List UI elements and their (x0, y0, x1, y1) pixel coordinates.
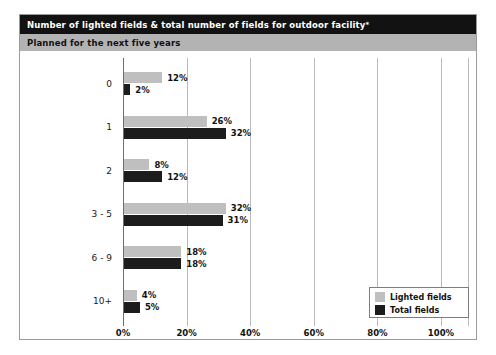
bar-value-label: 32% (231, 128, 251, 138)
gridline-0pct (123, 58, 124, 326)
bar-value-label: 26% (212, 116, 232, 126)
chart-screenshot: Number of lighted fields & total number … (0, 0, 496, 355)
bar-value-label: 32% (231, 203, 251, 213)
x-tick-label: 40% (240, 328, 260, 338)
chart-title-bar: Number of lighted fields & total number … (20, 15, 476, 34)
bar-value-label: 4% (142, 290, 156, 300)
plot-area: 12%2%26%32%8%12%32%31%18%18%4%5% 0%20%40… (20, 51, 476, 339)
bar-lighted-fields (124, 203, 226, 214)
bar-value-label: 31% (228, 215, 248, 225)
bar-value-label: 12% (167, 172, 187, 182)
title-footnote-marker: * (365, 21, 369, 29)
legend-swatch-total-fields (375, 305, 385, 315)
y-tick-label: 10+ (50, 296, 112, 306)
bar-total-fields (124, 258, 181, 269)
legend-label-lighted-fields: Lighted fields (390, 293, 452, 302)
chart-subtitle-bar: Planned for the next five years (20, 34, 476, 51)
y-tick-label: 6 - 9 (50, 253, 112, 263)
gridline-40pct (250, 58, 251, 326)
bar-lighted-fields (124, 116, 207, 127)
chart-frame: Number of lighted fields & total number … (19, 14, 477, 340)
x-tick-label: 0% (116, 328, 130, 338)
bar-total-fields (124, 215, 223, 226)
bar-lighted-fields (124, 159, 149, 170)
chart-subtitle: Planned for the next five years (27, 38, 180, 48)
bar-total-fields (124, 128, 226, 139)
legend-label-total-fields: Total fields (390, 306, 439, 315)
gridline-60pct (314, 58, 315, 326)
bar-lighted-fields (124, 290, 137, 301)
x-tick-label: 100% (428, 328, 454, 338)
bar-value-label: 18% (186, 247, 206, 257)
x-tick-label: 80% (367, 328, 387, 338)
gridline-100pct (441, 58, 442, 326)
legend-item: Total fields (375, 304, 468, 316)
bar-total-fields (124, 171, 162, 182)
legend-item: Lighted fields (375, 291, 468, 303)
bar-lighted-fields (124, 72, 162, 83)
page-title: Number of lighted fields & total number … (27, 20, 365, 30)
legend-swatch-lighted-fields (375, 292, 385, 302)
bar-lighted-fields (124, 246, 181, 257)
gridline-80pct (377, 58, 378, 326)
x-tick-label: 20% (176, 328, 196, 338)
bar-value-label: 8% (154, 160, 168, 170)
x-tick-label: 60% (304, 328, 324, 338)
y-tick-label: 2 (50, 166, 112, 176)
gridline-20pct (187, 58, 188, 326)
bar-value-label: 18% (186, 259, 206, 269)
chart-legend: Lighted fields Total fields (369, 287, 469, 318)
bar-value-label: 2% (135, 85, 149, 95)
bar-total-fields (124, 302, 140, 313)
y-tick-label: 1 (50, 122, 112, 132)
y-tick-label: 0 (50, 79, 112, 89)
y-tick-label: 3 - 5 (50, 209, 112, 219)
plot-right-edge (468, 58, 469, 326)
bar-value-label: 5% (145, 302, 159, 312)
bar-total-fields (124, 84, 130, 95)
bar-value-label: 12% (167, 73, 187, 83)
